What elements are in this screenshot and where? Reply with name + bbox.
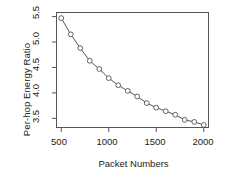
data-point xyxy=(116,83,121,88)
data-point xyxy=(182,117,187,122)
data-point xyxy=(87,58,92,63)
data-point xyxy=(135,94,140,99)
data-line xyxy=(61,18,204,125)
data-point xyxy=(192,120,197,125)
chart-figure: Per-hop Energy Ratio 3.5 4.0 4.5 5.0 5.5… xyxy=(0,0,225,179)
data-point xyxy=(154,105,159,110)
data-point xyxy=(68,32,73,37)
data-point xyxy=(106,76,111,81)
axis-ticks xyxy=(52,17,204,132)
data-markers xyxy=(59,16,206,128)
data-point xyxy=(78,46,83,51)
data-point xyxy=(201,123,206,128)
plot-area xyxy=(0,0,225,179)
plot-border xyxy=(57,13,209,128)
data-point xyxy=(125,88,130,93)
data-point xyxy=(144,101,149,106)
data-point xyxy=(173,112,178,117)
series-line xyxy=(61,18,204,125)
data-point xyxy=(97,67,102,72)
data-point xyxy=(59,16,64,21)
plot-frame xyxy=(57,13,209,128)
data-point xyxy=(163,109,168,114)
